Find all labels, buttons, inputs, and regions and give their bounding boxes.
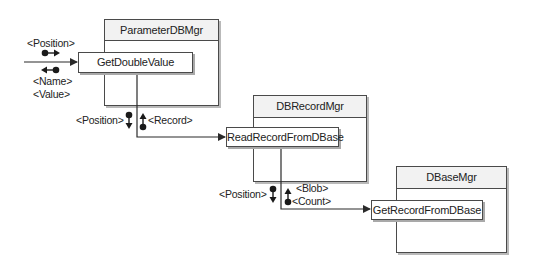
method-box-getrecordfromdbase: GetRecordFromDBase (371, 200, 483, 220)
param-label-position-in: <Position> (219, 188, 267, 200)
output-flow-icon (41, 67, 59, 74)
param-label-position-in: <Position> (76, 114, 124, 126)
param-label-count-out: <Count> (292, 195, 331, 207)
param-label-value-out: <Value> (33, 88, 70, 100)
output-flow-icon (285, 188, 292, 205)
param-label-position-in: <Position> (27, 37, 75, 49)
input-flow-icon (42, 50, 60, 57)
param-label-name-out: <Name> (33, 75, 72, 87)
call-arrow-readrecordfromdbase (137, 72, 225, 137)
param-label-blob-out: <Blob> (296, 182, 328, 194)
input-flow-icon (126, 112, 133, 129)
output-flow-icon (140, 113, 147, 130)
param-label-record-out: <Record> (148, 114, 193, 126)
method-box-readrecordfromdbase: ReadRecordFromDBase (226, 127, 339, 147)
input-flow-icon (270, 186, 277, 203)
method-box-getdoublevalue: GetDoubleValue (78, 52, 193, 73)
